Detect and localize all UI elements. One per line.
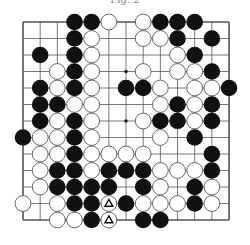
black-stone[interactable]	[66, 63, 83, 80]
white-stone[interactable]	[84, 163, 100, 179]
black-stone[interactable]	[204, 146, 221, 163]
white-stone[interactable]	[67, 97, 83, 113]
white-stone[interactable]	[118, 146, 134, 162]
black-stone[interactable]	[118, 80, 135, 97]
black-stone[interactable]	[66, 162, 83, 179]
black-stone[interactable]	[169, 14, 186, 31]
black-stone[interactable]	[169, 113, 186, 130]
black-stone[interactable]	[186, 179, 203, 196]
black-stone[interactable]	[66, 80, 83, 97]
white-stone[interactable]	[84, 31, 100, 47]
white-stone[interactable]	[187, 163, 203, 179]
black-stone[interactable]	[83, 195, 100, 212]
white-stone[interactable]	[49, 130, 65, 146]
black-stone[interactable]	[186, 14, 203, 31]
white-stone[interactable]	[49, 64, 65, 80]
white-stone[interactable]	[204, 196, 220, 212]
white-stone[interactable]	[101, 196, 117, 212]
black-stone[interactable]	[15, 129, 32, 146]
white-stone[interactable]	[152, 163, 168, 179]
black-stone[interactable]	[204, 113, 221, 130]
black-stone[interactable]	[83, 212, 100, 229]
white-stone[interactable]	[152, 80, 168, 96]
black-stone[interactable]	[66, 179, 83, 196]
white-stone[interactable]	[135, 14, 151, 30]
white-stone[interactable]	[49, 146, 65, 162]
white-stone[interactable]	[84, 113, 100, 129]
black-stone[interactable]	[135, 80, 152, 97]
black-stone[interactable]	[204, 96, 221, 113]
white-stone[interactable]	[15, 196, 31, 212]
black-stone[interactable]	[66, 14, 83, 31]
white-stone[interactable]	[204, 179, 220, 195]
white-stone[interactable]	[84, 64, 100, 80]
white-stone[interactable]	[84, 80, 100, 96]
black-stone[interactable]	[118, 195, 135, 212]
white-stone[interactable]	[101, 146, 117, 162]
black-stone[interactable]	[135, 179, 152, 196]
black-stone[interactable]	[66, 195, 83, 212]
white-stone[interactable]	[135, 31, 151, 47]
white-stone[interactable]	[135, 196, 151, 212]
white-stone[interactable]	[101, 212, 117, 228]
white-stone[interactable]	[187, 113, 203, 129]
white-stone[interactable]	[32, 179, 48, 195]
black-stone[interactable]	[32, 96, 49, 113]
white-stone[interactable]	[152, 97, 168, 113]
white-stone[interactable]	[135, 146, 151, 162]
white-stone[interactable]	[49, 113, 65, 129]
black-stone[interactable]	[152, 113, 169, 130]
white-stone[interactable]	[32, 146, 48, 162]
black-stone[interactable]	[101, 179, 118, 196]
white-stone[interactable]	[32, 163, 48, 179]
black-stone[interactable]	[186, 195, 203, 212]
white-stone[interactable]	[135, 64, 151, 80]
white-stone[interactable]	[170, 64, 186, 80]
white-stone[interactable]	[152, 179, 168, 195]
black-stone[interactable]	[186, 129, 203, 146]
white-stone[interactable]	[84, 97, 100, 113]
white-stone[interactable]	[67, 212, 83, 228]
black-stone[interactable]	[32, 80, 49, 97]
black-stone[interactable]	[66, 146, 83, 163]
black-stone[interactable]	[204, 30, 221, 47]
black-stone[interactable]	[221, 80, 238, 97]
black-stone[interactable]	[32, 113, 49, 130]
black-stone[interactable]	[66, 129, 83, 146]
white-stone[interactable]	[152, 196, 168, 212]
black-stone[interactable]	[152, 14, 169, 31]
white-stone[interactable]	[84, 47, 100, 63]
black-stone[interactable]	[204, 63, 221, 80]
black-stone[interactable]	[135, 212, 152, 229]
white-stone[interactable]	[152, 130, 168, 146]
black-stone[interactable]	[66, 47, 83, 64]
white-stone[interactable]	[152, 31, 168, 47]
white-stone[interactable]	[49, 212, 65, 228]
white-stone[interactable]	[49, 196, 65, 212]
black-stone[interactable]	[49, 179, 66, 196]
white-stone[interactable]	[49, 80, 65, 96]
white-stone[interactable]	[135, 113, 151, 129]
black-stone[interactable]	[83, 179, 100, 196]
white-stone[interactable]	[170, 196, 186, 212]
black-stone[interactable]	[83, 14, 100, 31]
black-stone[interactable]	[186, 47, 203, 64]
white-stone[interactable]	[84, 130, 100, 146]
black-stone[interactable]	[118, 162, 135, 179]
black-stone[interactable]	[66, 30, 83, 47]
white-stone[interactable]	[187, 97, 203, 113]
black-stone[interactable]	[169, 30, 186, 47]
black-stone[interactable]	[49, 96, 66, 113]
white-stone[interactable]	[84, 146, 100, 162]
black-stone[interactable]	[49, 162, 66, 179]
black-stone[interactable]	[135, 162, 152, 179]
black-stone[interactable]	[204, 162, 221, 179]
black-stone[interactable]	[169, 96, 186, 113]
white-stone[interactable]	[187, 80, 203, 96]
white-stone[interactable]	[170, 47, 186, 63]
black-stone[interactable]	[152, 212, 169, 229]
white-stone[interactable]	[32, 130, 48, 146]
black-stone[interactable]	[32, 47, 49, 64]
white-stone[interactable]	[187, 64, 203, 80]
white-stone[interactable]	[170, 163, 186, 179]
